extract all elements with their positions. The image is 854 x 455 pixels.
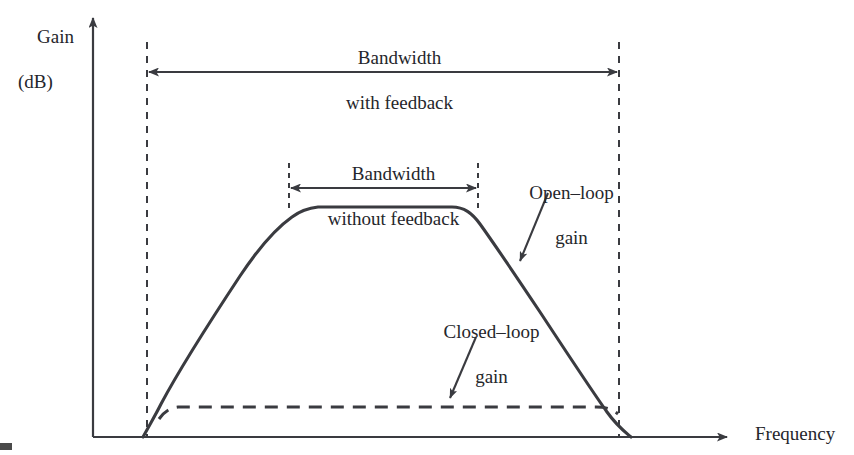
bandwidth-with-feedback-label: Bandwidth with feedback	[300, 25, 480, 137]
bandwidth-without-feedback-line1: Bandwidth	[352, 163, 435, 184]
closed-loop-gain-curve	[159, 407, 618, 419]
open-loop-gain-label: Open–loop gain	[507, 160, 617, 272]
x-axis-label: Frequency	[755, 423, 835, 445]
closed-loop-gain-line1: Closed–loop	[443, 321, 539, 342]
closed-loop-gain-line2: gain	[475, 366, 508, 387]
gain-frequency-diagram: Gain (dB) Frequency Bandwidth with feedb…	[0, 0, 854, 455]
bandwidth-with-feedback-line1: Bandwidth	[358, 47, 441, 68]
y-axis-label-unit: (dB)	[18, 71, 74, 93]
open-loop-gain-line1: Open–loop	[529, 182, 613, 203]
closed-loop-gain-label: Closed–loop gain	[417, 299, 547, 411]
open-loop-gain-line2: gain	[555, 227, 588, 248]
bandwidth-with-feedback-line2: with feedback	[346, 92, 453, 113]
bandwidth-without-feedback-line2: without feedback	[328, 208, 459, 229]
y-axis-label: Gain (dB)	[18, 4, 74, 138]
bandwidth-without-feedback-label: Bandwidth without feedback	[294, 141, 474, 253]
y-axis-label-name: Gain	[37, 26, 74, 47]
scan-artifact-mark	[0, 443, 12, 450]
